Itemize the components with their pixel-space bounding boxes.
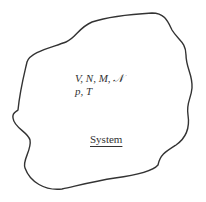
boundary-curve (13, 13, 192, 189)
system-label: System (90, 133, 122, 145)
system-boundary (0, 0, 206, 202)
variables-line-2: p, T (75, 85, 124, 98)
variables-line-1: V, N, M, 𝒩 (75, 72, 124, 85)
state-variables: V, N, M, 𝒩 p, T (75, 72, 124, 98)
